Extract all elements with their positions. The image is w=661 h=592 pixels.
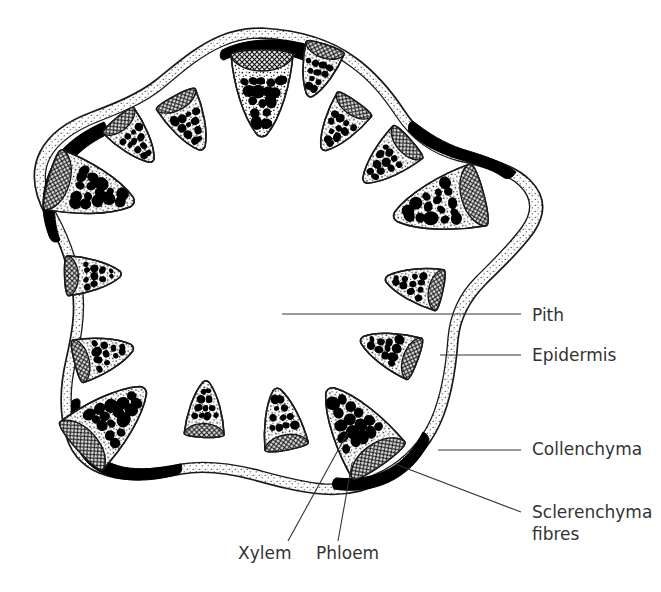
label-xylem: Xylem [238,543,291,563]
xylem-vessel [418,280,425,286]
label-sclerenchyma-line2: fibres [532,524,580,544]
label-phloem: Phloem [316,543,379,563]
label-pith: Pith [532,305,564,325]
leader-line-sclerenchyma [395,464,521,512]
diagram-canvas: PithEpidermisCollenchymaSclerenchymafibr… [0,0,661,592]
label-collenchyma: Collenchyma [532,439,642,459]
stem-cross-section-diagram: PithEpidermisCollenchymaSclerenchymafibr… [0,0,661,592]
label-sclerenchyma: Sclerenchyma [532,502,652,522]
label-epidermis: Epidermis [532,345,616,365]
